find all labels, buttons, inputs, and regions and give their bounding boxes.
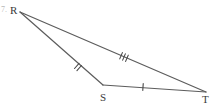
segment-rt	[20, 12, 206, 92]
vertex-label-s: S	[100, 92, 106, 103]
segment-rs	[20, 12, 103, 85]
vertex-label-t: T	[202, 94, 209, 105]
geometry-diagram: 7. R S T	[0, 0, 212, 108]
segments-group	[20, 12, 206, 92]
tick-mark	[77, 66, 81, 71]
congruence-ticks-group	[75, 53, 144, 91]
vertex-label-r: R	[10, 5, 17, 16]
tick-mark	[75, 63, 79, 68]
segment-st	[103, 85, 206, 92]
tick-marks-rt	[120, 53, 129, 62]
